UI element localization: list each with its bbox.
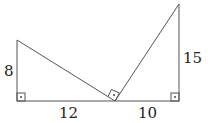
right-base-label: 10: [138, 104, 157, 122]
left-hypotenuse: [17, 40, 115, 101]
left-height-label: 8: [4, 62, 14, 80]
left-right-angle-marker: [17, 93, 25, 101]
right-height-label: 15: [183, 49, 202, 67]
apex-right-angle-marker: [108, 90, 120, 102]
triangles-diagram: 8 12 10 15: [0, 0, 208, 123]
right-hypotenuse: [115, 4, 179, 101]
left-base-label: 12: [59, 104, 78, 122]
right-right-angle-marker: [171, 93, 179, 101]
